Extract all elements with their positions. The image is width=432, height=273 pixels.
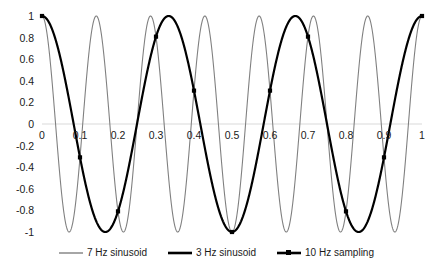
sample-marker: [192, 89, 196, 93]
sample-marker: [230, 230, 234, 234]
sample-marker: [420, 14, 424, 18]
legend-swatch-icon: [167, 248, 193, 258]
x-axis-tick: 0: [39, 130, 45, 141]
sample-marker: [78, 155, 82, 159]
x-axis-tick: 0.9: [377, 130, 392, 141]
legend-item[interactable]: 10 Hz sampling: [276, 248, 374, 258]
sample-marker: [382, 155, 386, 159]
sample-marker: [344, 209, 348, 213]
chart-legend: 7 Hz sinusoid3 Hz sinusoid10 Hz sampling: [0, 243, 432, 263]
sample-marker: [154, 35, 158, 39]
sample-marker: [306, 35, 310, 39]
legend-label: 3 Hz sinusoid: [196, 248, 256, 258]
legend-item[interactable]: 7 Hz sinusoid: [58, 248, 147, 258]
sample-marker: [268, 89, 272, 93]
x-axis-tick: 0.3: [149, 130, 164, 141]
legend-label: 10 Hz sampling: [305, 248, 374, 258]
legend-item[interactable]: 3 Hz sinusoid: [167, 248, 256, 258]
x-axis-tick: 0.2: [111, 130, 126, 141]
legend-swatch-icon: [58, 248, 84, 258]
x-axis-tick: 1: [419, 130, 425, 141]
x-axis-tick: 0.5: [225, 130, 240, 141]
legend-swatch-icon: [276, 248, 302, 258]
chart-container: 10.80.60.40.20-0.2-0.4-0.6-0.8-1 00.10.2…: [0, 0, 432, 273]
x-axis-tick: 0.6: [263, 130, 278, 141]
x-axis-tick: 0.1: [73, 130, 88, 141]
x-axis-tick: 0.7: [301, 130, 316, 141]
sample-marker: [116, 209, 120, 213]
legend-label: 7 Hz sinusoid: [87, 248, 147, 258]
sample-marker: [40, 14, 44, 18]
x-axis-tick: 0.8: [339, 130, 354, 141]
x-axis-tick: 0.4: [187, 130, 202, 141]
x-axis-tick-labels: 00.10.20.30.40.50.60.70.80.91: [0, 130, 432, 144]
